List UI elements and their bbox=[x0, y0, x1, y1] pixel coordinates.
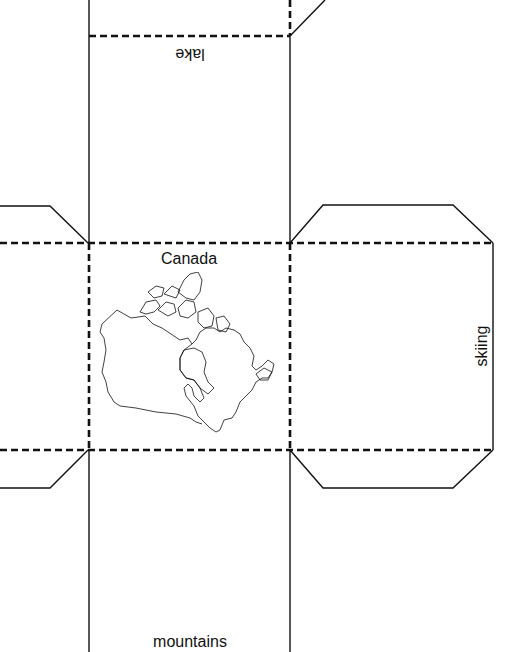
right-bottom-flap bbox=[290, 450, 493, 488]
arctic-island bbox=[178, 300, 196, 318]
face-label-lake: lake bbox=[175, 46, 204, 62]
arctic-island bbox=[140, 300, 160, 314]
cube-net-template: lake Canada skiing mountains bbox=[0, 0, 510, 652]
top-flap-edge bbox=[290, 0, 325, 36]
arctic-island bbox=[158, 302, 176, 316]
arctic-island bbox=[148, 286, 164, 298]
canada-south-border-path bbox=[100, 324, 202, 424]
arctic-island bbox=[198, 308, 214, 328]
face-label-canada: Canada bbox=[161, 251, 217, 267]
canada-map-outline-icon bbox=[96, 272, 286, 440]
left-top-flap bbox=[0, 206, 88, 243]
face-label-skiing: skiing bbox=[474, 326, 490, 367]
right-top-flap bbox=[290, 205, 493, 243]
ellesmere-island bbox=[178, 272, 202, 300]
face-label-mountains: mountains bbox=[153, 634, 227, 650]
canada-mainland-path bbox=[102, 310, 274, 432]
left-bottom-flap bbox=[0, 450, 88, 488]
